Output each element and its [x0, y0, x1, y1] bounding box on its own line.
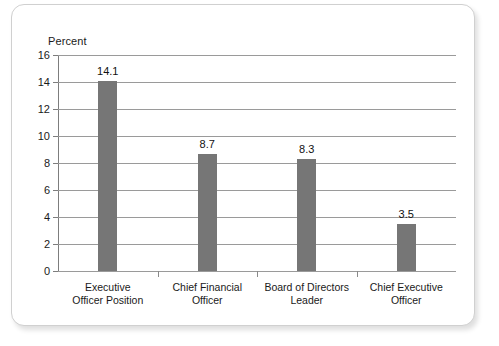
y-axis-tick [53, 190, 58, 191]
bar-value-label: 3.5 [399, 208, 414, 220]
y-axis-tick [53, 55, 58, 56]
x-axis-category-label: ExecutiveOfficer Position [72, 281, 143, 307]
page-background: Percent 024681012141614.1ExecutiveOffice… [0, 0, 499, 346]
bar-chart: Percent 024681012141614.1ExecutiveOffice… [12, 5, 476, 327]
gridline [58, 190, 456, 191]
y-axis-label: 10 [38, 130, 50, 142]
y-axis-title: Percent [48, 35, 87, 47]
gridline [58, 82, 456, 83]
y-axis-label: 8 [44, 157, 50, 169]
y-axis-label: 12 [38, 103, 50, 115]
y-axis-label: 2 [44, 238, 50, 250]
bar-value-label: 8.3 [299, 143, 314, 155]
x-axis-category-label: Chief ExecutiveOfficer [370, 281, 443, 307]
y-axis-tick [53, 217, 58, 218]
y-axis-tick [53, 244, 58, 245]
x-axis-category-label: Chief FinancialOfficer [173, 281, 242, 307]
y-axis-label: 16 [38, 49, 50, 61]
y-axis-tick [53, 82, 58, 83]
y-axis-tick [53, 163, 58, 164]
y-axis-tick [53, 271, 58, 272]
chart-card: Percent 024681012141614.1ExecutiveOffice… [11, 4, 475, 326]
gridline [58, 163, 456, 164]
bar-value-label: 14.1 [97, 65, 118, 77]
gridline [58, 55, 456, 56]
x-axis-tick [257, 271, 258, 277]
plot-area: 024681012141614.1ExecutiveOfficer Positi… [58, 55, 456, 271]
y-axis-label: 4 [44, 211, 50, 223]
y-axis-label: 14 [38, 76, 50, 88]
gridline [58, 109, 456, 110]
bar [198, 154, 217, 271]
gridline [58, 217, 456, 218]
bar [297, 159, 316, 271]
bar [98, 81, 117, 271]
y-axis-tick [53, 109, 58, 110]
bar [397, 224, 416, 271]
y-axis-label: 0 [44, 265, 50, 277]
x-axis-tick [158, 271, 159, 277]
y-axis-tick [53, 136, 58, 137]
x-axis-tick [357, 271, 358, 277]
y-axis-label: 6 [44, 184, 50, 196]
x-axis-category-label: Board of DirectorsLeader [264, 281, 349, 307]
gridline [58, 136, 456, 137]
bar-value-label: 8.7 [200, 138, 215, 150]
